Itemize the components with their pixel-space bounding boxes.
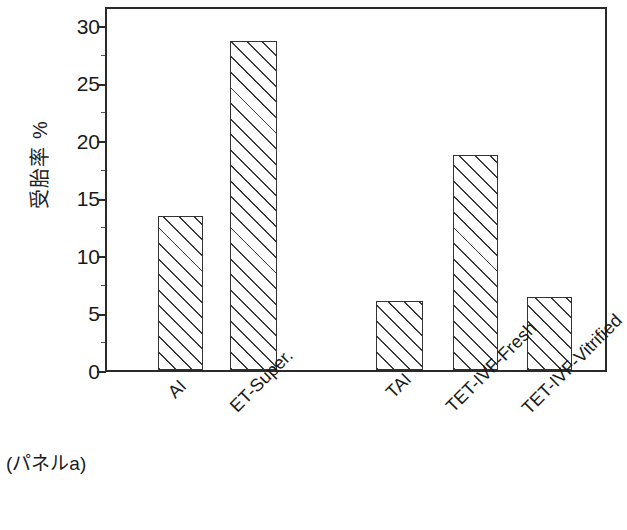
- bar-tet-ivf-fresh: [453, 155, 498, 370]
- y-axis-tick-labels: 30 25 20 15 10 5 0: [55, 0, 100, 390]
- x-tick-label-ai: AI: [164, 376, 191, 403]
- y-tick-label-30: 30: [60, 16, 100, 37]
- y-tick-label-5: 5: [60, 303, 100, 324]
- y-tick-label-15: 15: [60, 188, 100, 209]
- y-tick-label-20: 20: [60, 131, 100, 152]
- y-tick-label-25: 25: [60, 73, 100, 94]
- bar-et-super: [230, 41, 277, 370]
- bar-tai: [376, 301, 423, 370]
- plot-area: [105, 7, 607, 372]
- x-tick-label-tai: TAI: [382, 369, 416, 403]
- x-axis-tick-labels: AI ET-Super. TAI TET-IVF-Fresh TET-IVF-V…: [0, 372, 620, 522]
- y-axis-title: 受胎率 %: [24, 105, 53, 225]
- panel-caption: (パネルa): [6, 448, 86, 475]
- y-tick-label-10: 10: [60, 246, 100, 267]
- bar-ai: [158, 216, 203, 370]
